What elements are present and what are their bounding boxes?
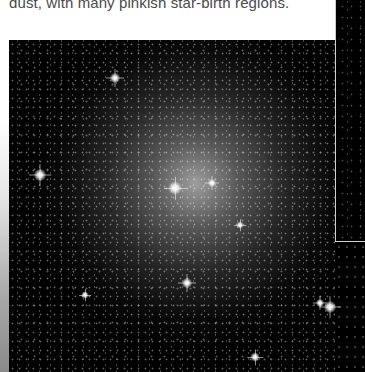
adjacent-star-field-photo (335, 0, 365, 242)
bright-star (169, 182, 182, 195)
star-cluster-photo (9, 40, 335, 372)
bright-star (110, 73, 120, 83)
bright-star (316, 299, 324, 307)
bright-star (208, 179, 216, 187)
bright-star (251, 353, 260, 362)
left-page-edge-gradient (0, 120, 9, 372)
bright-star (34, 169, 46, 181)
bright-star (182, 278, 192, 288)
bright-star (82, 292, 89, 299)
star-field-texture (9, 40, 335, 372)
star-field-texture (336, 0, 365, 241)
caption-text: dust, with many pinkish star-birth regio… (9, 0, 289, 11)
bright-star (237, 222, 244, 229)
